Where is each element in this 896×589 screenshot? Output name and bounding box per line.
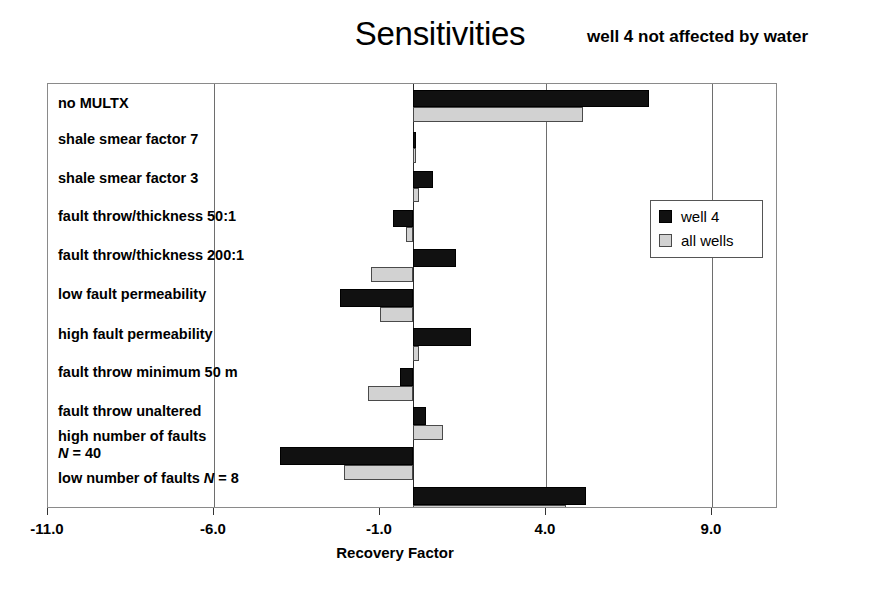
low-faults-n-symbol: N <box>204 470 214 486</box>
high-faults-line1: high number of faults <box>58 428 206 444</box>
legend-entry-allwells: all wells <box>659 231 734 249</box>
bar-well4-throw-unaltered <box>413 407 426 425</box>
bar-allwells-throw-unaltered <box>413 425 443 440</box>
legend-swatch-allwells-icon <box>659 234 672 247</box>
bar-allwells-ssf7 <box>413 148 416 163</box>
chart-figure: Sensitivities well 4 not affected by wat… <box>0 0 896 589</box>
tick-label-4: 4.0 <box>535 521 556 536</box>
bar-well4-high-faults <box>280 447 413 465</box>
chart-title: Sensitivities <box>310 17 570 50</box>
bar-well4-low-perm <box>340 289 413 307</box>
category-label-low-perm: low fault permeability <box>58 286 206 303</box>
category-label-ftt50: fault throw/thickness 50:1 <box>58 208 236 225</box>
bar-allwells-low-perm <box>380 307 413 322</box>
bar-allwells-ftt50 <box>406 227 413 242</box>
bar-allwells-high-faults <box>344 465 413 480</box>
tick-label-minus1: -1.0 <box>366 521 392 536</box>
tick-mark-minus6 <box>213 508 214 515</box>
category-label-high-faults: high number of faults N = 40 <box>58 428 288 463</box>
legend-label-well4: well 4 <box>681 209 719 224</box>
legend-entry-well4: well 4 <box>659 207 719 225</box>
tick-label-9: 9.0 <box>701 521 722 536</box>
low-faults-prefix: low number of faults <box>58 470 204 486</box>
gridline-4 <box>546 84 547 507</box>
tick-mark-minus1 <box>379 508 380 515</box>
tick-label-minus11: -11.0 <box>30 521 63 536</box>
category-label-throw-unaltered: fault throw unaltered <box>58 403 201 420</box>
bar-well4-no-multx <box>413 90 649 107</box>
bar-well4-high-perm <box>413 328 471 346</box>
tick-label-minus6: -6.0 <box>200 521 226 536</box>
tick-mark-minus11 <box>47 508 48 515</box>
bar-well4-throw-min50 <box>400 368 413 386</box>
bar-well4-ftt50 <box>393 210 413 227</box>
bar-well4-ftt200 <box>413 249 456 267</box>
bar-allwells-no-multx <box>413 107 583 122</box>
bar-well4-ssf3 <box>413 171 433 188</box>
bar-well4-low-faults <box>413 487 586 505</box>
high-faults-line2-rest: = 40 <box>68 445 101 461</box>
bar-allwells-throw-min50 <box>368 386 413 401</box>
x-axis-title: Recovery Factor <box>0 545 790 560</box>
chart-annotation: well 4 not affected by water <box>587 28 808 45</box>
bar-well4-ssf7 <box>413 132 416 148</box>
category-label-high-perm: high fault permeability <box>58 326 213 343</box>
chart-legend: well 4 all wells <box>650 200 763 258</box>
bar-allwells-ftt200 <box>371 267 413 282</box>
gridline-9 <box>712 84 713 507</box>
category-label-ssf3: shale smear factor 3 <box>58 170 198 187</box>
legend-label-allwells: all wells <box>681 233 734 248</box>
bar-allwells-high-perm <box>413 346 419 361</box>
bar-allwells-low-faults <box>413 505 566 508</box>
bar-allwells-ssf3 <box>413 188 419 202</box>
category-label-ssf7: shale smear factor 7 <box>58 131 198 148</box>
low-faults-rest: = 8 <box>214 470 239 486</box>
category-label-throw-min50: fault throw minimum 50 m <box>58 364 238 381</box>
category-label-no-multx: no MULTX <box>58 95 129 112</box>
high-faults-n-symbol: N <box>58 445 68 461</box>
category-label-low-faults: low number of faults N = 8 <box>58 470 239 487</box>
tick-mark-4 <box>545 508 546 515</box>
legend-swatch-well4-icon <box>659 210 672 223</box>
tick-mark-9 <box>711 508 712 515</box>
category-label-ftt200: fault throw/thickness 200:1 <box>58 247 244 264</box>
